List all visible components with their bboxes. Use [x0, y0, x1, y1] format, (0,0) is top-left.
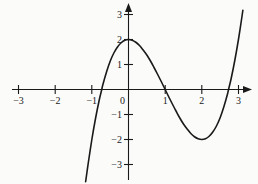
axes-group [12, 3, 252, 180]
plot-canvas [0, 0, 258, 184]
origin-label-zero: 0 [120, 96, 125, 106]
y-axis-label-neg1: −1 [111, 110, 122, 120]
y-axis-label-neg3: −3 [111, 160, 122, 170]
y-axis-label-pos1: 1 [117, 60, 122, 70]
y-axis-label-pos2: 2 [117, 35, 122, 45]
y-axis-label-neg2: −2 [111, 135, 122, 145]
x-axis-label-neg1: −1 [86, 96, 97, 106]
x-axis-arrow-icon [243, 86, 252, 93]
x-axis-label-neg3: −3 [13, 96, 24, 106]
y-axis-arrow-icon [125, 3, 132, 12]
cubic-function-graph: −3 −2 −1 0 1 2 3 3 2 1 −1 −2 −3 [0, 0, 258, 184]
x-axis-label-neg2: −2 [50, 96, 61, 106]
x-axis-label-pos2: 2 [199, 96, 204, 106]
x-axis-label-pos3: 3 [236, 96, 241, 106]
y-axis-label-pos3: 3 [117, 10, 122, 20]
x-axis-label-pos1: 1 [163, 96, 168, 106]
